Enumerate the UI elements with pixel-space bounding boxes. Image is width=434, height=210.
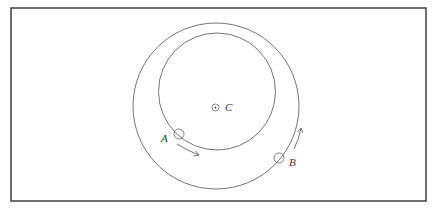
point-a: A [160, 129, 199, 155]
diagram-frame [11, 8, 426, 201]
point-b-marker-icon [274, 153, 284, 163]
point-c-label: C [225, 101, 233, 113]
point-c: C [212, 101, 233, 113]
point-c-center-dot-icon [215, 107, 217, 109]
inner-circle [159, 33, 276, 150]
point-b-label: B [289, 156, 296, 168]
point-a-marker-icon [174, 129, 184, 139]
point-a-label: A [160, 132, 168, 144]
orbit-diagram: C A B [0, 0, 434, 210]
